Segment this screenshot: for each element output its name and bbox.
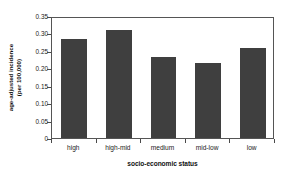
y-axis-tick-label: 0.15 [26,84,48,90]
bar [151,57,177,138]
x-axis-tick-label: high-mid [96,144,141,152]
y-axis-tick-labels: 00.050.100.150.200.250.300.35 [24,0,48,182]
bar [106,30,132,138]
y-axis-tick-label: 0.20 [26,66,48,72]
x-axis-tick-mark [185,139,186,143]
y-axis-tick-label: 0.35 [26,14,48,20]
bar [195,63,221,138]
x-axis-title: socio-economic status [51,160,274,168]
y-axis-tick-label: 0.30 [26,31,48,37]
x-axis-tick-mark [229,139,230,143]
x-axis-tick-label: medium [140,144,185,152]
x-axis-tick-label: high [51,144,96,152]
y-axis-title: age-adjusted incidence (per 100,000) [4,17,26,139]
x-axis-tick-label: mid-low [185,144,230,152]
y-axis-tick-label: 0.05 [26,118,48,124]
bar-chart-figure: age-adjusted incidence (per 100,000) 00.… [0,0,286,182]
x-axis-tick-mark [140,139,141,143]
x-axis-tick-mark [274,139,275,143]
y-axis-title-line2: (per 100,000) [15,44,23,111]
plot-area [51,17,274,139]
x-axis-tick-mark [51,139,52,143]
bar [61,39,87,138]
y-axis-tick-label: 0.10 [26,101,48,107]
x-axis-tick-mark [96,139,97,143]
bar [240,48,266,138]
x-axis-tick-label: low [229,144,274,152]
bars-container [52,18,273,138]
y-axis-title-line1: age-adjusted incidence [7,44,14,111]
x-axis-tick-labels: highhigh-midmediummid-lowlow [51,144,274,156]
y-axis-tick-label: 0.25 [26,49,48,55]
y-axis-tick-label: 0 [26,136,48,142]
